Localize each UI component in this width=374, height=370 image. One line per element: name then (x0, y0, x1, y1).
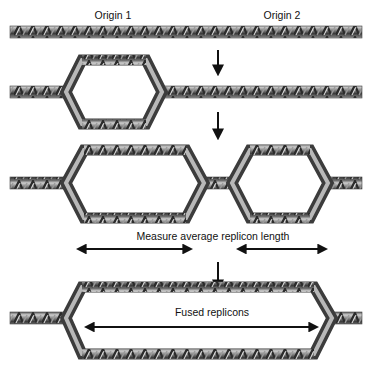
dna-strand-left (10, 312, 68, 324)
measure-label: Measure average replicon length (137, 230, 290, 242)
dna-strand (10, 26, 362, 38)
stage-1-unreplicated-dna (10, 26, 362, 38)
replication-bubble (66, 60, 162, 124)
dna-strand-left (10, 86, 68, 98)
stage-2-single-bubble (10, 55, 362, 129)
fused-bubble (66, 287, 332, 354)
origin-1-label: Origin 1 (95, 9, 132, 21)
dna-strand-right (162, 86, 362, 98)
stage-4-fused-replicons (10, 282, 362, 359)
fused-label: Fused replicons (175, 306, 249, 318)
replication-bubble-1 (66, 150, 204, 218)
dna-strand-left (10, 177, 68, 189)
origin-2-label: Origin 2 (264, 9, 301, 21)
stage-3-two-bubbles (10, 145, 362, 223)
replication-diagram: Origin 1 Origin 2 Measure average replic… (0, 0, 374, 370)
